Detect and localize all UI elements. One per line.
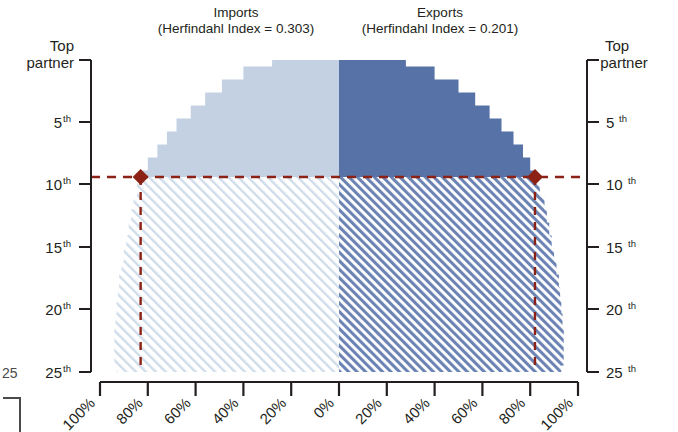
y-label-left-10-sup: th [63,175,71,186]
y-label-right-5: 5 [606,114,614,131]
x-label-1: 80% [113,394,146,427]
y-label-right-15-sup: th [628,238,636,249]
concentration-chart: Imports (Herfindahl Index = 0.303) Expor… [0,0,678,432]
y-label-left-5: 5 [54,114,62,131]
corner-bracket [3,398,20,432]
y-label-left-10: 10 [45,176,62,193]
y-label-right-25-sup: th [628,363,636,374]
x-axis-labels: 100%80%60%40%20%0%20%40%60%80%100% [59,394,576,432]
y-label-left-top-2: partner [26,54,74,71]
chart-container: Imports (Herfindahl Index = 0.303) Expor… [0,0,678,432]
left-title-line1: Imports [213,5,258,20]
x-label-9: 80% [495,394,528,427]
plot-area [114,60,563,372]
y-label-left-25: 25 [45,364,62,381]
x-label-4: 20% [256,394,289,427]
y-label-right-20: 20 [606,301,623,318]
cutoff-label-text: 25 [2,365,18,381]
left-title: Imports (Herfindahl Index = 0.303) [158,5,314,36]
right-title-line1: Exports [417,5,463,20]
x-label-7: 40% [399,394,432,427]
x-label-0: 100% [59,394,98,432]
x-label-8: 60% [447,394,480,427]
y-axis-right-labels: Top partner 5 th 10 th 15 th 20 th 25 th [600,37,648,381]
x-label-2: 60% [160,394,193,427]
y-label-left-15-sup: th [63,238,71,249]
y-label-left-20-sup: th [63,300,71,311]
x-label-3: 40% [208,394,241,427]
y-label-right-10-sup: th [628,175,636,186]
cutoff-label: 25 [2,365,18,381]
right-title: Exports (Herfindahl Index = 0.201) [362,5,518,36]
y-label-left-20: 20 [45,301,62,318]
x-label-5: 0% [310,394,337,421]
y-label-right-top-1: Top [605,37,629,54]
exports-hatched-area [339,177,564,372]
y-label-left-15: 15 [45,239,62,256]
y-axis-left-labels: Top partner 5 th 10 th 15 th 20 th 25 th [26,37,74,381]
y-axis-left [79,60,91,372]
cutoff-corner-mark [3,398,20,432]
x-label-6: 20% [352,394,385,427]
x-axis-ticks [100,382,578,396]
right-title-line2: (Herfindahl Index = 0.201) [362,21,518,36]
y-label-left-25-sup: th [63,363,71,374]
exports-solid-area [339,60,535,177]
imports-solid-area [141,60,339,177]
y-label-left-5-sup: th [63,113,71,124]
y-label-left-top-1: Top [50,37,74,54]
x-label-10: 100% [537,394,576,432]
imports-hatched-area [114,177,339,372]
y-label-right-20-sup: th [628,300,636,311]
left-title-line2: (Herfindahl Index = 0.303) [158,21,314,36]
y-label-right-15: 15 [606,239,623,256]
y-label-right-10: 10 [606,176,623,193]
y-label-right-5-sup: th [619,113,627,124]
y-label-right-top-2: partner [600,54,648,71]
y-label-right-25: 25 [606,364,623,381]
y-axis-right [587,60,599,372]
